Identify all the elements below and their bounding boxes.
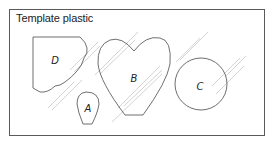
shapes-canvas: D A B C bbox=[0, 0, 273, 141]
shape-c-label: C bbox=[197, 81, 204, 92]
shape-d-label: D bbox=[51, 55, 59, 66]
shape-a-label: A bbox=[84, 103, 92, 114]
shape-a: A bbox=[77, 92, 99, 124]
shape-d: D bbox=[33, 37, 87, 92]
shape-c: C bbox=[175, 58, 227, 110]
shape-b-label: B bbox=[131, 73, 138, 84]
